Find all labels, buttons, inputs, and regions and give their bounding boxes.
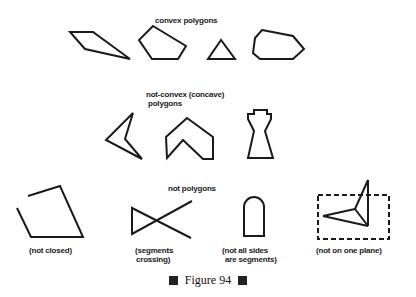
not-closed-shape	[17, 186, 83, 237]
concave-arrowhead	[106, 113, 142, 159]
caption-not-segments-line1: (not all sides	[222, 246, 268, 255]
concave-vase	[248, 110, 273, 158]
caption-crossing-line2: crossing)	[136, 255, 170, 264]
convex-quadrilateral	[70, 32, 130, 59]
square-bullet-icon	[169, 276, 178, 285]
crossing-segments-shape	[132, 201, 192, 238]
caption-crossing-line1: (segments	[135, 246, 173, 255]
not-polygons-title: not polygons	[168, 184, 216, 193]
figure-caption-text: Figure 94	[185, 273, 231, 287]
caption-not-segments-line2: are segments)	[225, 255, 277, 264]
concave-chevron	[166, 118, 213, 159]
concave-title-line2: polygons	[148, 99, 182, 108]
convex-heptagon	[253, 30, 304, 59]
convex-triangle	[208, 40, 235, 59]
arch-shape	[244, 197, 264, 236]
caption-not-closed: (not closed)	[29, 246, 72, 255]
caption-not-plane: (not on one plane)	[316, 246, 382, 255]
square-bullet-icon	[238, 276, 247, 285]
convex-title: convex polygons	[155, 16, 217, 25]
convex-pentagon	[139, 26, 186, 59]
figure-caption: Figure 94	[0, 273, 416, 288]
non-planar-shape	[323, 180, 368, 226]
concave-title-line1: not-convex (concave)	[146, 90, 224, 99]
